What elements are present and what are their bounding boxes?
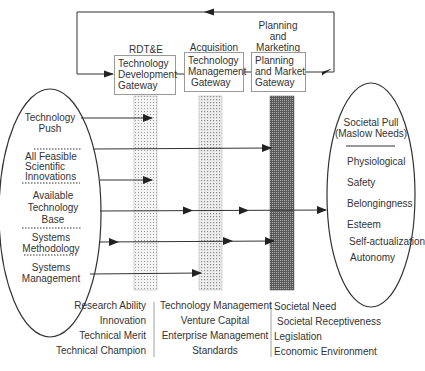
acquisition-factors: Technology Management Venture Capital En… (160, 298, 270, 358)
feedback-arrow-left-icon (204, 9, 214, 16)
planning-column (270, 96, 294, 290)
planning-factors: Societal Need Societal Receptiveness Leg… (274, 299, 394, 359)
phase-label-rdte: RDT&E (124, 44, 168, 55)
rdte-factors: Research Ability Innovation Technical Me… (40, 298, 146, 358)
maslow-item-self-actualization: Self-actualization (349, 236, 425, 247)
technology-development-gateway: Technology Development Gateway (114, 55, 176, 95)
planning-market-gateway: Planning and Market Gateway (251, 52, 306, 92)
maslow-item-autonomy: Autonomy (350, 252, 395, 263)
phase-label-planning: Planning and Marketing (252, 20, 304, 53)
technology-management-gateway: Technology Management Gateway (184, 52, 244, 92)
maslow-item-physiological: Physiological (347, 156, 405, 167)
maslow-item-belongingness: Belongingness (347, 198, 413, 209)
societal-pull-title: Societal Pull (Maslow Needs) (333, 117, 409, 139)
feasible-innovations-label: All Feasible Scientific Innovations (25, 152, 89, 182)
available-technology-base-label: Available Technology Base (20, 190, 86, 226)
rdte-column (134, 96, 157, 290)
maslow-item-safety: Safety (347, 177, 375, 188)
feedback-arrow-into-gateway-icon (104, 71, 114, 78)
systems-methodology-label: Systems Methodology (18, 232, 84, 254)
maslow-item-esteem: Esteem (347, 219, 381, 230)
acquisition-column (199, 96, 222, 290)
technology-push-label: Technology Push (18, 112, 82, 134)
systems-management-label: Systems Management (18, 262, 84, 284)
